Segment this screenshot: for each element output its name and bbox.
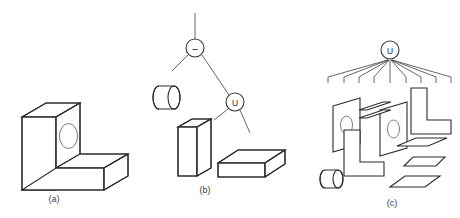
panel-c-caption: (c)	[387, 198, 398, 208]
csg-edge-difference-to-cylinder	[172, 55, 188, 71]
vertical-box-front-face	[178, 127, 197, 176]
brep-parallelogram-face-2	[404, 157, 445, 166]
panel-b-group: − U	[153, 13, 285, 195]
technical-figure-svg: (a) − U	[0, 0, 460, 218]
csg-edge-union-to-vertical-box	[214, 109, 228, 120]
bracket-hole-icon	[60, 124, 78, 149]
csg-horizontal-box-primitive	[218, 150, 285, 177]
csg-cylinder-primitive	[153, 86, 180, 109]
brep-l-face-front	[344, 130, 384, 176]
horizontal-box-front-face	[218, 163, 265, 177]
brep-cylinder-body	[320, 170, 343, 188]
hole-face-back-hole-icon	[388, 120, 400, 138]
brep-cylinder-primitive	[320, 170, 343, 188]
brep-fan-group	[328, 60, 451, 83]
csg-difference-node-label: −	[192, 43, 198, 55]
brep-fan-line-2	[344, 60, 388, 83]
brep-parallelogram-face-3	[390, 176, 440, 187]
csg-union-node-label: U	[232, 98, 238, 108]
brep-fan-line-8	[392, 60, 436, 83]
brep-union-node-label: U	[387, 46, 393, 56]
panel-a-caption: (a)	[49, 194, 60, 204]
figure-container: (a) − U	[0, 0, 460, 218]
brep-l-face-back	[411, 88, 451, 134]
cylinder-body	[153, 86, 180, 109]
panel-b-caption: (b)	[200, 185, 211, 195]
csg-vertical-box-primitive	[178, 119, 211, 176]
panel-c-group: U	[320, 41, 451, 208]
csg-edge-difference-to-union	[202, 55, 229, 95]
csg-edge-union-to-horizontal-box	[240, 110, 250, 133]
vertical-box-right-face	[197, 119, 211, 176]
panel-a-group: (a)	[22, 103, 128, 204]
